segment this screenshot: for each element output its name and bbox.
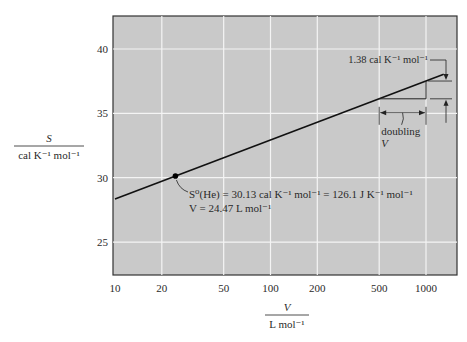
x-tick-label: 1000: [415, 282, 438, 294]
entropy-volume-chart: 102050100200500100025303540S⁰(He) = 30.1…: [0, 0, 467, 342]
y-axis-label-denominator: cal K⁻¹ mol⁻¹: [18, 149, 80, 161]
x-tick-label: 500: [371, 282, 388, 294]
x-tick-label: 50: [218, 282, 230, 294]
y-tick-label: 30: [97, 172, 109, 184]
doubling-label: doubling: [381, 125, 421, 137]
x-axis-label-numerator: V: [284, 301, 292, 313]
highlight-point: [173, 173, 179, 179]
y-tick-label: 35: [97, 107, 109, 119]
y-tick-label: 40: [97, 43, 109, 55]
x-tick-label: 20: [156, 282, 168, 294]
x-tick-label: 200: [309, 282, 326, 294]
x-axis-label-denominator: L mol⁻¹: [269, 318, 304, 330]
x-tick-label: 10: [110, 282, 122, 294]
y-axis-label-numerator: S: [46, 132, 52, 144]
y-tick-label: 25: [97, 236, 109, 248]
annotation-entropy: S⁰(He) = 30.13 cal K⁻¹ mol⁻¹ = 126.1 J K…: [189, 188, 413, 201]
x-tick-label: 100: [262, 282, 279, 294]
delta-label: 1.38 cal K⁻¹ mol⁻¹: [348, 54, 428, 65]
annotation-volume: V = 24.47 L mol⁻¹: [189, 202, 271, 214]
